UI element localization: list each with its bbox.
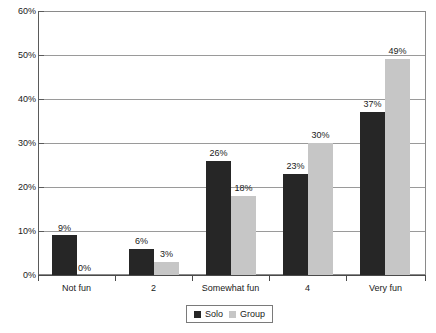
y-axis: 60% 50% 40% 30% 20% 10% 0% <box>0 0 38 333</box>
bar-value-solo-somewhat-fun: 26% <box>198 148 239 158</box>
y-tick-label: 10% <box>18 226 36 236</box>
y-tick-label: 0% <box>23 270 36 280</box>
x-tick-label-somewhat-fun: Somewhat fun <box>192 283 269 294</box>
bar-value-group-4: 30% <box>300 130 341 140</box>
bar-group-2 <box>154 262 179 275</box>
x-tick-label-not-fun: Not fun <box>38 283 115 294</box>
y-tick-label: 20% <box>18 182 36 192</box>
x-axis-line <box>38 275 426 276</box>
y-tick-label: 30% <box>18 138 36 148</box>
bar-solo-somewhat-fun <box>206 161 231 275</box>
x-tick-label-2: 2 <box>115 283 192 294</box>
bar-value-group-not-fun: 0% <box>78 263 119 273</box>
y-tick-mark <box>38 99 44 100</box>
bar-group-very-fun <box>385 59 410 275</box>
y-tick-mark <box>38 187 44 188</box>
y-tick-40: 40% <box>0 94 44 104</box>
legend-label-solo: Solo <box>205 309 223 319</box>
x-tick-mark <box>346 275 347 281</box>
x-tick-mark <box>192 275 193 281</box>
legend-swatch-icon <box>229 311 236 318</box>
y-tick-20: 20% <box>0 182 44 192</box>
bar-value-group-somewhat-fun: 18% <box>223 183 264 193</box>
x-tick-mark <box>269 275 270 281</box>
bar-value-solo-very-fun: 37% <box>352 99 393 109</box>
y-tick-10: 10% <box>0 226 44 236</box>
bar-group-somewhat-fun <box>231 196 256 275</box>
bar-value-solo-2: 6% <box>121 236 162 246</box>
gridline-50 <box>39 55 425 56</box>
bar-solo-not-fun <box>52 235 77 275</box>
bar-solo-4 <box>283 174 308 275</box>
y-tick-label: 60% <box>18 6 36 16</box>
y-tick-label: 40% <box>18 94 36 104</box>
x-tick-label-very-fun: Very fun <box>346 283 425 294</box>
bar-chart: 60% 50% 40% 30% 20% 10% 0% 9% 0% <box>0 0 436 333</box>
bar-value-group-very-fun: 49% <box>377 46 418 56</box>
bar-value-group-2: 3% <box>146 249 187 259</box>
y-tick-60: 60% <box>0 6 44 16</box>
y-tick-mark <box>38 11 44 12</box>
y-tick-50: 50% <box>0 50 44 60</box>
x-tick-mark <box>425 275 426 281</box>
bar-value-solo-4: 23% <box>275 161 316 171</box>
x-tick-label-4: 4 <box>269 283 346 294</box>
y-tick-30: 30% <box>0 138 44 148</box>
legend: Solo Group <box>186 305 273 323</box>
x-tick-mark <box>38 275 39 281</box>
legend-swatch-icon <box>194 311 201 318</box>
legend-label-group: Group <box>240 309 265 319</box>
x-tick-mark <box>115 275 116 281</box>
legend-item-group: Group <box>229 309 265 319</box>
y-tick-mark <box>38 143 44 144</box>
bar-value-solo-not-fun: 9% <box>44 223 85 233</box>
bar-solo-very-fun <box>360 112 385 275</box>
legend-item-solo: Solo <box>194 309 223 319</box>
y-tick-label: 50% <box>18 50 36 60</box>
y-tick-mark <box>38 55 44 56</box>
